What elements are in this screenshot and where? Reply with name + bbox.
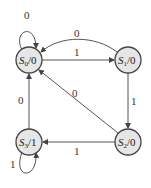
edge-label-s0-s1: 1 <box>74 46 80 58</box>
state-s2: S2/0 <box>115 129 141 155</box>
svg-text:S1/0: S1/0 <box>118 54 136 68</box>
svg-text:S3/1: S3/1 <box>19 136 37 150</box>
svg-text:S0/0: S0/0 <box>19 54 37 68</box>
edge-label-s3-s0: 0 <box>18 94 24 106</box>
edge-label-s1-s0: 0 <box>74 27 80 39</box>
state-diagram: 0 1 0 1 0 1 0 1 S0/0 S1/0 S2/0 S3/1 <box>0 0 151 188</box>
edge-label-s2-s0: 0 <box>72 87 78 99</box>
edge-label-s3-s3: 1 <box>10 158 16 170</box>
state-s0: S0/0 <box>16 47 42 73</box>
state-s1: S1/0 <box>115 47 141 73</box>
svg-text:S2/0: S2/0 <box>118 136 136 150</box>
edge-label-s2-s3: 1 <box>74 145 80 157</box>
edge-label-s0-s0: 0 <box>24 9 30 21</box>
state-s3: S3/1 <box>16 129 42 155</box>
edge-s2-s0 <box>39 70 118 133</box>
edge-label-s1-s2: 1 <box>131 95 137 107</box>
